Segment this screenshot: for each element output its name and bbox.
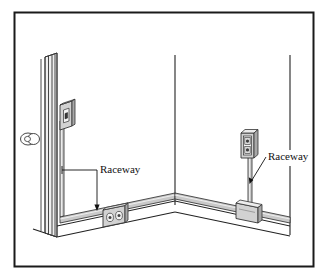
label-raceway-left: Raceway bbox=[100, 163, 141, 175]
junction-box-right-side bbox=[258, 205, 262, 224]
figure-container: Raceway Raceway bbox=[0, 0, 328, 279]
receptacle-right-slot-1 bbox=[246, 140, 249, 143]
junction-box-right bbox=[236, 200, 262, 223]
receptacle-left-slot-2 bbox=[118, 214, 121, 217]
door-knob bbox=[21, 133, 40, 145]
receptacle-box-right-side bbox=[254, 130, 258, 159]
switch-box bbox=[60, 99, 75, 130]
label-raceway-right: Raceway bbox=[268, 150, 309, 162]
receptacle-right-slot-2 bbox=[246, 148, 249, 151]
receptacle-box-left-side bbox=[125, 203, 128, 223]
figure-border bbox=[15, 13, 314, 267]
door-knob-spindle bbox=[25, 136, 31, 141]
receptacle-box-right bbox=[241, 130, 258, 159]
raceway-illustration: Raceway Raceway bbox=[0, 0, 328, 279]
switch-toggle bbox=[65, 113, 68, 119]
switch-box-side bbox=[72, 99, 75, 126]
receptacle-left-slot-1 bbox=[109, 216, 112, 219]
